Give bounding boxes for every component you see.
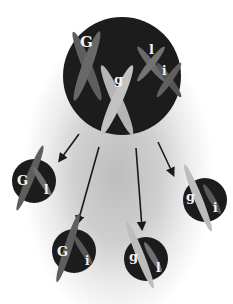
meiosis-diagram: G g l i G l G i (0, 0, 233, 304)
gamete-gI-label-left: g (129, 249, 138, 264)
gamete-gI-label-right: l (156, 261, 161, 275)
label-i: i (162, 64, 167, 78)
gamete-Gi-label-right: i (85, 254, 90, 268)
label-G: G (80, 33, 93, 51)
gamete-gi-label-right: i (213, 201, 218, 215)
parent-cell: G g l i (63, 17, 184, 137)
gamete-GI-label-right: l (44, 183, 49, 197)
arrow-to-gamete-gi (158, 142, 173, 174)
label-I: l (149, 42, 154, 57)
arrow-to-gamete-gI (136, 148, 142, 228)
arrows (60, 134, 173, 228)
gamete-gI: g l (123, 220, 168, 290)
arrow-to-gamete-GI (60, 134, 79, 160)
gamete-gi: g i (181, 163, 227, 233)
arrow-to-gamete-Gi (78, 147, 99, 222)
gamete-Gi: G i (52, 213, 96, 284)
gamete-GI-label-left: G (17, 173, 28, 188)
label-g: g (114, 72, 123, 87)
gamete-GI: G l (12, 144, 56, 212)
diagram-canvas: G g l i G l G i (0, 0, 233, 304)
gamete-Gi-label-left: G (57, 244, 68, 259)
gamete-gi-label-left: g (186, 189, 195, 204)
